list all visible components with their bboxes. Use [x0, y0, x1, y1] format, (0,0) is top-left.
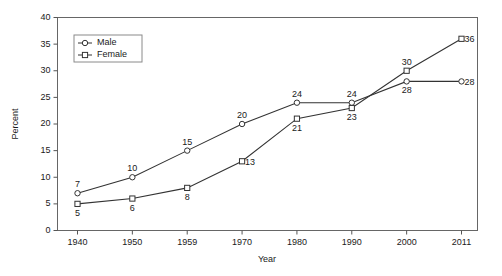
data-point-marker[interactable] — [349, 100, 354, 105]
data-point-label: 30 — [402, 57, 412, 67]
data-point-marker[interactable] — [130, 196, 135, 201]
data-point-marker[interactable] — [130, 175, 135, 180]
y-tick-label: 40 — [40, 12, 50, 22]
data-point-marker[interactable] — [459, 79, 464, 84]
data-point-marker[interactable] — [404, 79, 409, 84]
data-point-label: 28 — [402, 85, 412, 95]
data-point-label: 24 — [347, 89, 357, 99]
data-point-marker[interactable] — [294, 116, 299, 121]
data-point-marker[interactable] — [459, 36, 464, 41]
chart-canvas: 0510152025303540 19401950195919701980199… — [0, 0, 502, 276]
data-point-label: 10 — [127, 163, 137, 173]
x-tick-label: 1940 — [67, 237, 87, 247]
y-tick-label: 0 — [45, 225, 50, 235]
y-tick-label: 15 — [40, 145, 50, 155]
x-tick-label: 1959 — [177, 237, 197, 247]
x-tick-label: 1950 — [122, 237, 142, 247]
data-point-label: 13 — [245, 157, 255, 167]
data-point-label: 6 — [130, 203, 135, 213]
data-point-marker[interactable] — [185, 185, 190, 190]
data-point-marker[interactable] — [404, 68, 409, 73]
line-chart: 0510152025303540 19401950195919701980199… — [0, 0, 502, 276]
x-axis: 19401950195919701980199020002011 — [67, 231, 471, 247]
data-point-marker[interactable] — [239, 159, 244, 164]
data-point-label: 8 — [185, 192, 190, 202]
data-point-marker[interactable] — [349, 105, 354, 110]
x-tick-label: 1970 — [232, 237, 252, 247]
data-point-label: 28 — [464, 77, 474, 87]
x-tick-label: 2000 — [397, 237, 417, 247]
legend-item-label: Male — [97, 37, 117, 47]
data-point-label: 36 — [464, 34, 474, 44]
y-tick-label: 35 — [40, 39, 50, 49]
y-axis: 0510152025303540 — [40, 12, 57, 235]
data-point-marker[interactable] — [239, 121, 244, 126]
data-point-marker[interactable] — [294, 100, 299, 105]
chart-legend[interactable]: MaleFemale — [74, 35, 142, 62]
data-point-label: 23 — [347, 112, 357, 122]
legend-item-label: Female — [97, 49, 127, 59]
x-axis-title: Year — [258, 254, 276, 264]
data-point-marker[interactable] — [75, 201, 80, 206]
data-point-marker[interactable] — [75, 191, 80, 196]
y-tick-label: 25 — [40, 92, 50, 102]
data-point-label: 20 — [237, 110, 247, 120]
y-tick-label: 30 — [40, 65, 50, 75]
legend-marker-circle — [82, 40, 87, 45]
legend-marker-square — [82, 52, 87, 57]
x-tick-label: 1990 — [342, 237, 362, 247]
y-tick-label: 20 — [40, 118, 50, 128]
data-point-label: 5 — [75, 208, 80, 218]
data-point-marker[interactable] — [185, 148, 190, 153]
y-tick-label: 10 — [40, 172, 50, 182]
x-tick-label: 2011 — [452, 237, 471, 247]
data-point-label: 24 — [292, 89, 302, 99]
data-point-label: 21 — [292, 123, 302, 133]
y-tick-label: 5 — [45, 198, 50, 208]
data-point-label: 7 — [75, 179, 80, 189]
y-axis-title: Percent — [10, 108, 20, 140]
data-point-label: 15 — [182, 137, 192, 147]
x-tick-label: 1980 — [287, 237, 307, 247]
